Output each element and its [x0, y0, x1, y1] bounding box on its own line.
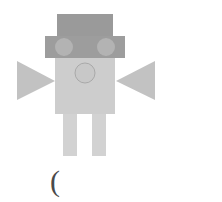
robot-left-arm	[17, 61, 55, 100]
caption-paren: (	[50, 166, 60, 196]
robot-chest-button	[75, 63, 95, 83]
robot-hat	[57, 14, 113, 36]
robot-left-leg	[63, 114, 77, 156]
robot-right-eye-icon	[97, 38, 115, 56]
robot-left-eye-icon	[55, 38, 73, 56]
robot-right-arm	[116, 61, 155, 100]
drawing-canvas: (	[0, 0, 222, 202]
robot-right-leg	[92, 114, 106, 156]
robot-figure	[0, 0, 222, 202]
